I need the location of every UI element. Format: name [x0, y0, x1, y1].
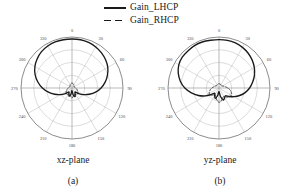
- grid-b: [168, 37, 270, 139]
- angle-tick-label: 60: [267, 57, 272, 62]
- polar-spoke: [72, 44, 98, 88]
- angle-tick-label: 30: [246, 36, 251, 41]
- plot-a-plane-label: xz-plane: [8, 155, 138, 165]
- angle-tick-label: 330: [40, 36, 47, 41]
- polar-spoke: [28, 88, 72, 114]
- plot-b-plane-label: yz-plane: [155, 155, 285, 165]
- angle-tick-label: 120: [266, 114, 273, 119]
- plot-b-index-label: (b): [155, 176, 285, 186]
- polar-chart-a-svg: 0306090120150180210240270300330: [8, 24, 138, 152]
- angle-tick-label: 330: [187, 36, 194, 41]
- grid-a: [21, 37, 123, 139]
- angle-tick-label: 150: [98, 136, 105, 141]
- angle-tick-label: 300: [166, 57, 173, 62]
- polar-spoke: [47, 44, 73, 88]
- polar-spoke: [219, 44, 245, 88]
- angle-tick-label: 120: [119, 114, 126, 119]
- polar-spoke: [175, 88, 219, 114]
- legend-label-lhcp: Gain_LHCP: [130, 2, 178, 13]
- angle-tick-label: 210: [187, 136, 194, 141]
- angle-tick-label: 300: [19, 57, 26, 62]
- angle-tick-label: 180: [69, 143, 76, 148]
- polar-spoke: [219, 63, 263, 89]
- angle-tick-label: 60: [120, 57, 125, 62]
- legend-item-lhcp: Gain_LHCP: [104, 1, 224, 14]
- angle-tick-label: 240: [166, 114, 173, 119]
- polar-spoke: [194, 44, 220, 88]
- curve-lhcp-yz: [178, 40, 255, 100]
- angle-tick-label: 240: [19, 114, 26, 119]
- angle-tick-label: 270: [11, 86, 18, 91]
- polar-spoke: [219, 88, 263, 114]
- angle-tick-label: 210: [40, 136, 47, 141]
- angle-tick-label: 90: [127, 86, 132, 91]
- angle-tick-label: 0: [71, 28, 74, 33]
- polar-plot-xz-plane: 0306090120150180210240270300330: [8, 24, 138, 152]
- polar-plot-yz-plane: 0306090120150180210240270300330: [155, 24, 285, 152]
- plot-a-index-label: (a): [8, 176, 138, 186]
- angle-tick-label: 150: [245, 136, 252, 141]
- polar-spoke: [72, 88, 116, 114]
- angle-tick-label: 0: [218, 28, 221, 33]
- angle-tick-label: 270: [158, 86, 165, 91]
- polar-chart-b-svg: 0306090120150180210240270300330: [155, 24, 285, 152]
- angle-tick-label: 90: [274, 86, 279, 91]
- angle-tick-label: 180: [216, 143, 223, 148]
- polar-spoke: [72, 63, 116, 89]
- legend-solid-line-icon: [104, 4, 126, 12]
- antenna-radiation-pattern-figure: Gain_LHCP Gain_RHCP 03060901201501802102…: [0, 0, 295, 194]
- angle-tick-label: 30: [99, 36, 104, 41]
